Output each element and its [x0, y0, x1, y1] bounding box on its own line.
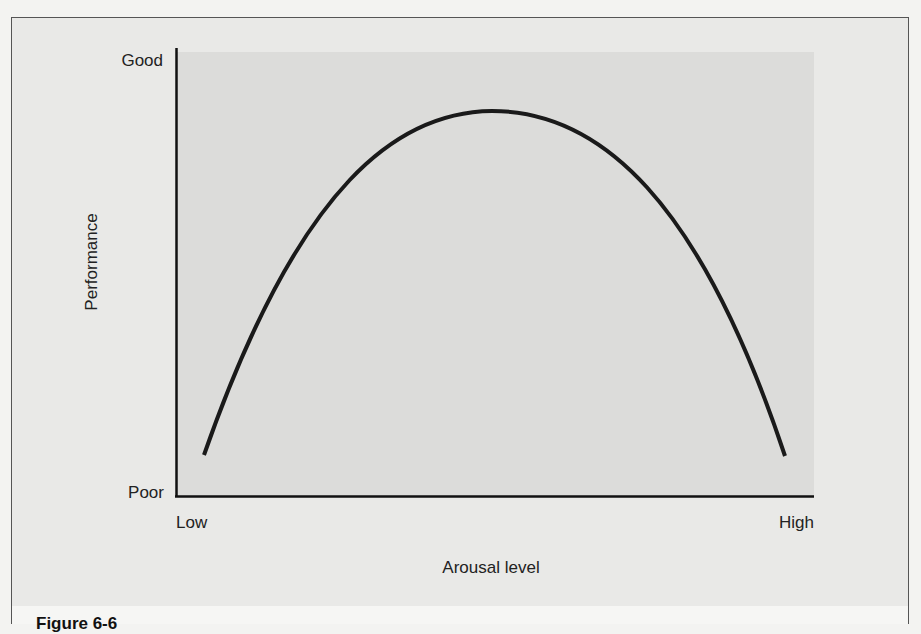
- plot-area: [176, 52, 814, 496]
- y-tick-poor: Poor: [128, 483, 164, 502]
- figure-caption: Figure 6-6: [36, 614, 117, 634]
- y-tick-good: Good: [121, 51, 163, 70]
- x-tick-high: High: [779, 513, 814, 532]
- x-axis-label: Arousal level: [442, 558, 539, 577]
- x-tick-low: Low: [176, 513, 208, 532]
- y-axis-label: Performance: [82, 213, 101, 310]
- caption-area: [11, 606, 909, 624]
